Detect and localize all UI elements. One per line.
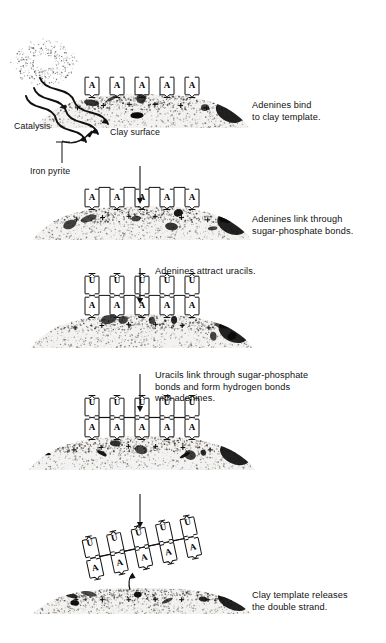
svg-text:A: A	[114, 192, 121, 202]
svg-text:A: A	[89, 422, 96, 432]
svg-text:A: A	[189, 422, 196, 432]
svg-text:A: A	[189, 192, 196, 202]
svg-text:U: U	[89, 397, 96, 407]
svg-text:A: A	[164, 300, 171, 310]
step-caption-1: Adenines bind to clay template.	[252, 100, 321, 123]
svg-text:U: U	[110, 532, 119, 543]
svg-text:A: A	[89, 300, 96, 310]
label-clay-surface: Clay surface	[110, 127, 160, 137]
svg-text:A: A	[91, 562, 100, 573]
label-iron-pyrite: Iron pyrite	[30, 166, 70, 176]
flow-arrow	[137, 374, 143, 412]
step-caption-3: Adenines attract uracils.	[155, 266, 256, 278]
svg-text:A: A	[89, 80, 96, 90]
nucleotide-a: A	[110, 297, 124, 317]
nucleotide-u: U	[85, 274, 99, 294]
svg-text:A: A	[164, 422, 171, 432]
step-2: AAAAA	[32, 187, 252, 244]
svg-text:A: A	[139, 80, 146, 90]
nucleotide-a: A	[160, 419, 174, 439]
svg-text:A: A	[164, 192, 171, 202]
nucleotide-a: A	[135, 548, 153, 571]
svg-text:A: A	[164, 546, 173, 557]
nucleotide-a: A	[110, 189, 124, 209]
svg-text:A: A	[115, 557, 124, 568]
nucleotide-u: U	[110, 396, 124, 416]
nucleotide-u: U	[135, 274, 149, 294]
svg-text:A: A	[189, 300, 196, 310]
svg-text:U: U	[134, 527, 143, 538]
step-5: AAAAAUUUUU	[31, 514, 252, 618]
svg-text:U: U	[86, 537, 95, 548]
nucleotide-a: A	[160, 77, 174, 97]
nucleotide-a: A	[86, 558, 104, 581]
nucleotide-a: A	[160, 543, 178, 566]
nucleotide-a: A	[160, 297, 174, 317]
flow-arrow	[137, 494, 143, 528]
diagram-artwork: AAAAAAAAAAAAAAAUUUUUAAAAAUUUUUAAAAAUUUUU	[0, 0, 386, 643]
nucleotide-u: U	[155, 519, 173, 542]
nucleotide-a: A	[184, 537, 202, 560]
nucleotide-u: U	[110, 274, 124, 294]
step-3: AAAAAUUUUU	[30, 274, 254, 353]
nucleotide-a: A	[185, 297, 199, 317]
leader-lines	[56, 130, 95, 164]
svg-text:U: U	[114, 275, 121, 285]
step-caption-5: Clay template releases the double strand…	[252, 590, 348, 613]
svg-text:U: U	[114, 397, 121, 407]
nucleotide-u: U	[179, 514, 197, 537]
diagram-canvas: AAAAAAAAAAAAAAAUUUUUAAAAAUUUUUAAAAAUUUUU…	[0, 0, 386, 643]
svg-text:A: A	[89, 192, 96, 202]
nucleotide-a: A	[110, 77, 124, 97]
svg-text:A: A	[139, 422, 146, 432]
nucleotide-u: U	[130, 525, 148, 548]
nucleotide-a: A	[185, 189, 199, 209]
svg-text:A: A	[189, 541, 198, 552]
step-caption-4: Uracils link through sugar-phosphate bon…	[155, 370, 308, 405]
nucleotide-a: A	[160, 189, 174, 209]
svg-text:U: U	[183, 516, 192, 527]
svg-text:A: A	[114, 80, 121, 90]
nucleotide-u: U	[135, 396, 149, 416]
nucleotide-a: A	[185, 77, 199, 97]
nucleotide-a: A	[110, 419, 124, 439]
svg-text:A: A	[164, 80, 171, 90]
label-catalysis: Catalysis	[14, 121, 51, 131]
nucleotide-u: U	[106, 530, 124, 553]
svg-text:U: U	[159, 521, 168, 532]
svg-text:A: A	[140, 552, 149, 563]
svg-text:A: A	[114, 422, 121, 432]
flow-arrow	[137, 166, 143, 204]
svg-text:A: A	[114, 300, 121, 310]
step-caption-2: Adenines link through sugar-phosphate bo…	[252, 214, 353, 237]
nucleotide-a: A	[185, 419, 199, 439]
nucleotide-a: A	[85, 189, 99, 209]
nucleotide-a: A	[85, 77, 99, 97]
release-arrow	[129, 573, 136, 591]
step-1: AAAAA	[34, 77, 250, 133]
svg-text:A: A	[189, 80, 196, 90]
nucleotide-a: A	[111, 553, 129, 576]
svg-text:U: U	[89, 275, 96, 285]
nucleotide-a: A	[85, 419, 99, 439]
nucleotide-u: U	[85, 396, 99, 416]
nucleotide-u: U	[82, 535, 100, 558]
nucleotide-a: A	[85, 297, 99, 317]
